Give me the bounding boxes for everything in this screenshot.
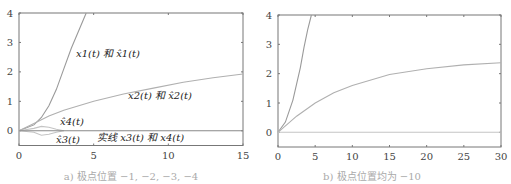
left-caption: a) 极点位置 −1, −2, −3, −4 (64, 170, 198, 182)
x-tick-label: 0 (275, 151, 281, 162)
right-chart: 05101520253001234 b) 极点位置均为 −10 (266, 10, 508, 183)
x-tick-label: 30 (495, 151, 508, 162)
annotation-x1: x1(t) 和 x̂1(t) (76, 48, 140, 59)
right-series (278, 15, 501, 132)
annotation-x3-x4-solid: 实线 x3(t) 和 x4(t) (97, 132, 184, 143)
y-tick-label: 3 (266, 39, 272, 50)
series-line (278, 15, 311, 132)
x-tick-label: 15 (237, 150, 250, 161)
series-line (19, 13, 86, 131)
annotation-x4hat: x̂4(t) (60, 116, 84, 127)
x-tick-label: 15 (383, 151, 396, 162)
right-axes-frame (278, 15, 501, 147)
x-tick-label: 0 (16, 150, 22, 161)
annotation-x3hat: x̂3(t) (56, 134, 80, 145)
y-tick-label: 0 (266, 127, 272, 138)
y-tick-label: 0 (7, 125, 13, 136)
right-caption: b) 极点位置均为 −10 (323, 170, 421, 182)
x-tick-label: 10 (346, 151, 359, 162)
y-tick-label: 4 (7, 8, 13, 19)
y-tick-label: 4 (266, 10, 272, 21)
y-tick-label: 2 (266, 68, 272, 79)
series-line (19, 74, 243, 131)
left-chart: 05101501234 x1(t) 和 x̂1(t) x2(t) 和 x̂2(t… (7, 8, 250, 183)
x-tick-label: 5 (90, 150, 96, 161)
x-tick-label: 20 (420, 151, 433, 162)
x-tick-label: 25 (457, 151, 470, 162)
left-axes-frame (19, 13, 243, 146)
x-tick-label: 5 (312, 151, 318, 162)
series-line (278, 63, 501, 133)
y-tick-label: 1 (266, 98, 272, 109)
annotation-x2: x2(t) 和 x̂2(t) (128, 90, 192, 101)
y-tick-label: 2 (7, 66, 13, 77)
y-tick-label: 3 (7, 37, 13, 48)
figure: 05101501234 x1(t) 和 x̂1(t) x2(t) 和 x̂2(t… (0, 0, 511, 184)
y-tick-label: 1 (7, 96, 13, 107)
right-ticks: 05101520253001234 (266, 10, 508, 163)
left-series (19, 13, 243, 135)
x-tick-label: 10 (162, 150, 175, 161)
